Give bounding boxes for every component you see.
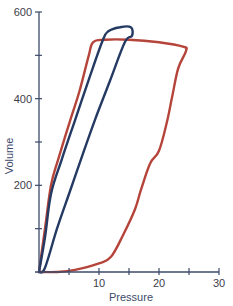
pressure-volume-chart: 200400600102030 Pressure Volume [0, 0, 233, 306]
x-axis-title: Pressure [109, 291, 153, 303]
series-layer [39, 26, 187, 272]
ticks: 200400600102030 [14, 6, 225, 289]
x-tick-label-20: 20 [153, 277, 165, 289]
y-tick-label-400: 400 [14, 93, 32, 105]
y-axis-title: Volume [3, 138, 15, 175]
y-tick-label-200: 200 [14, 179, 32, 191]
x-tick-label-10: 10 [93, 277, 105, 289]
x-tick-label-30: 30 [213, 277, 225, 289]
y-tick-label-600: 600 [14, 6, 32, 18]
